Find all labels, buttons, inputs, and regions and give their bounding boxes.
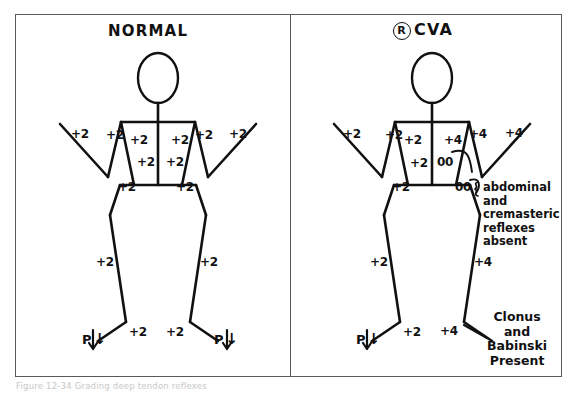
normal-right-trunk-reflex: +2 [166, 155, 184, 169]
cva-left-knee-reflex: +2 [370, 255, 388, 269]
trunk-right-normal [182, 122, 195, 185]
cva-right-outer-arm-reflex: +4 [505, 126, 523, 140]
annotation-line: Present [487, 354, 547, 369]
normal-left-hip-reflex: +2 [118, 180, 136, 194]
cva-left-inner-arm-reflex: +2 [404, 133, 422, 147]
normal-left-outer-arm-reflex: +2 [71, 127, 89, 141]
cva-left-ankle-reflex: +2 [403, 325, 421, 339]
annotation-line: absent [483, 235, 560, 249]
normal-right-hip-reflex: +2 [176, 180, 194, 194]
panel-title-cva: RCVA [393, 20, 453, 40]
cva-upper-abdominal-reflex-absent: 00 [437, 155, 453, 169]
circled-r-icon: R [393, 22, 411, 40]
annotation-line: Babinski [487, 339, 547, 354]
normal-right-inner-arm-reflex: +2 [171, 133, 189, 147]
cva-left-outer-arm-reflex: +2 [343, 127, 361, 141]
normal-left-plantar-response: P↓ [82, 330, 106, 348]
normal-right-knee-reflex: +2 [200, 255, 218, 269]
normal-right-ankle-reflex: +2 [166, 325, 184, 339]
normal-stick-figure [60, 53, 256, 341]
cva-right-ankle-reflex: +4 [440, 324, 458, 338]
reflex-diagram-page: NORMAL RCVA +2 +2 +2 +2 +2 +2 +2 +2 +2 +… [0, 0, 576, 393]
panel-title-normal: NORMAL [108, 22, 188, 40]
hip-right-normal [196, 185, 206, 215]
clonus-babinski-annotation: Clonus and Babinski Present [487, 310, 547, 368]
annotation-line: and [483, 195, 560, 209]
head-cva [412, 53, 452, 103]
annotation-line: and [487, 325, 547, 340]
clonus-annotation-leader [464, 325, 487, 338]
cva-right-biceps-reflex: +4 [469, 127, 487, 141]
plantar-down-arrow-icon: ↓ [226, 330, 239, 348]
annotation-line: cremasteric [483, 208, 560, 222]
plantar-down-arrow-icon: ↓ [94, 330, 107, 348]
panel-title-cva-label: CVA [414, 20, 453, 39]
annotation-line: abdominal [483, 181, 560, 195]
cva-lower-abdominal-reflex-absent: 00 [455, 180, 471, 194]
figure-caption: Figure 12-34 Grading deep tendon reflexe… [16, 381, 207, 391]
normal-right-outer-arm-reflex: +2 [229, 127, 247, 141]
normal-left-biceps-reflex: +2 [106, 128, 124, 142]
annotation-line: Clonus [487, 310, 547, 325]
annotation-line: reflexes [483, 222, 560, 236]
cva-left-trunk-reflex: +2 [410, 156, 428, 170]
cva-left-plantar-response: P↓ [356, 330, 380, 348]
normal-left-inner-arm-reflex: +2 [130, 133, 148, 147]
normal-right-biceps-reflex: +2 [195, 128, 213, 142]
normal-right-plantar-response: P↓ [214, 330, 238, 348]
cva-left-biceps-reflex: +2 [385, 128, 403, 142]
cva-right-inner-arm-reflex: +4 [444, 133, 462, 147]
cva-right-knee-reflex: +4 [474, 255, 492, 269]
normal-left-knee-reflex: +2 [96, 255, 114, 269]
plantar-down-arrow-icon: ↓ [368, 330, 381, 348]
abdominal-cremasteric-annotation: abdominal and cremasteric reflexes absen… [483, 181, 560, 249]
head-normal [138, 53, 178, 103]
cva-left-hip-reflex: +2 [392, 180, 410, 194]
normal-left-trunk-reflex: +2 [137, 155, 155, 169]
normal-left-ankle-reflex: +2 [129, 325, 147, 339]
